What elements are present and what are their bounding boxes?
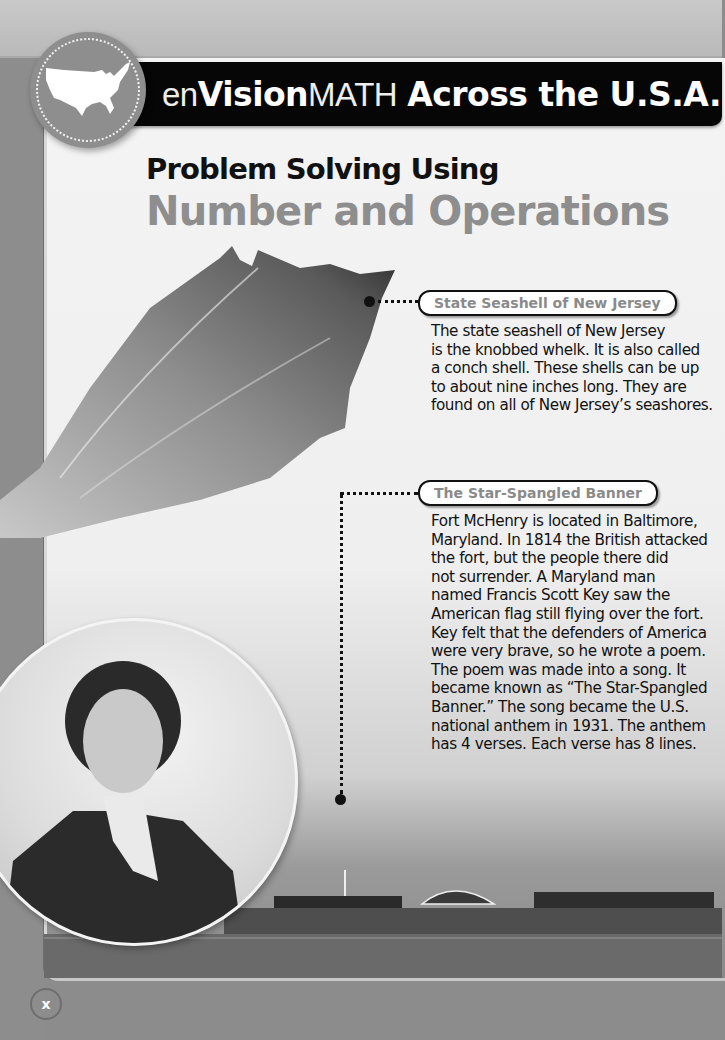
- text-line: a conch shell. These shells can be up: [431, 359, 713, 378]
- callout-pin: [335, 794, 346, 805]
- text-line: named Francis Scott Key saw the: [431, 586, 708, 605]
- text-line: Banner.” The song became the U.S.: [431, 698, 708, 717]
- page-subtitle: Problem Solving Using: [146, 152, 499, 186]
- text-line: Key felt that the defenders of America: [431, 624, 708, 643]
- callout-text-seashell: The state seashell of New Jersey is the …: [431, 322, 713, 415]
- callout-leader-line: [340, 492, 418, 495]
- callout-label-seashell: State Seashell of New Jersey: [418, 290, 677, 316]
- callout-leader-line: [340, 494, 343, 794]
- page-title: Number and Operations: [146, 188, 669, 234]
- usa-badge: [30, 32, 146, 148]
- text-line: The state seashell of New Jersey: [431, 322, 713, 341]
- text-line: not surrender. A Maryland man: [431, 568, 708, 587]
- text-line: were very brave, so he wrote a poem.: [431, 642, 708, 661]
- text-line: became known as “The Star-Spangled: [431, 679, 708, 698]
- text-line: found on all of New Jersey’s seashores.: [431, 396, 713, 415]
- text-line: American flag still flying over the fort…: [431, 605, 708, 624]
- text-line: national anthem in 1931. The anthem: [431, 717, 708, 736]
- brand-en: en: [162, 76, 198, 113]
- callout-label-banner: The Star-Spangled Banner: [418, 480, 658, 506]
- page-number: x: [30, 988, 62, 1020]
- header-title: enVisionMATHAcross the U.S.A.: [162, 75, 721, 114]
- brand-math: MATH: [308, 76, 397, 113]
- callout-text-banner: Fort McHenry is located in Baltimore, Ma…: [431, 512, 708, 754]
- header-title-rest: Across the U.S.A.: [407, 75, 721, 114]
- text-line: Fort McHenry is located in Baltimore,: [431, 512, 708, 531]
- brand-vision: Vision: [198, 75, 308, 114]
- text-line: to about nine inches long. They are: [431, 378, 713, 397]
- usa-map-icon: [44, 60, 134, 118]
- text-line: Maryland. In 1814 the British attacked: [431, 531, 708, 550]
- text-line: The poem was made into a song. It: [431, 661, 708, 680]
- header-bar: enVisionMATHAcross the U.S.A.: [130, 62, 722, 126]
- callout-pin: [364, 296, 375, 307]
- text-line: the fort, but the people there did: [431, 549, 708, 568]
- text-line: is the knobbed whelk. It is also called: [431, 341, 713, 360]
- callout-leader-line: [378, 300, 418, 303]
- text-line: has 4 verses. Each verse has 8 lines.: [431, 735, 708, 754]
- portrait-figure: [0, 621, 295, 943]
